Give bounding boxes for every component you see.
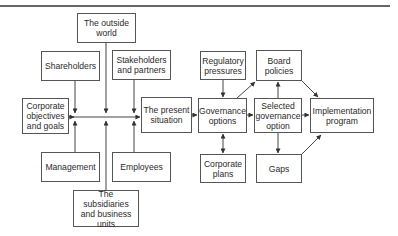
node-label: Management	[45, 162, 95, 172]
node-label: The present situation	[144, 105, 190, 125]
node-governance-options: Governance options	[198, 98, 247, 133]
node-management: Management	[41, 152, 100, 182]
node-label: The outside world	[84, 18, 129, 38]
node-label: Stakeholders and partners	[116, 55, 166, 75]
node-label: Corporate plans	[204, 159, 242, 179]
node-board-policies: Board policies	[256, 50, 302, 81]
node-implementation-program: Implementation program	[310, 98, 374, 133]
node-label: Employees	[120, 162, 163, 172]
node-label: Regulatory pressures	[202, 56, 244, 76]
node-subsidiaries: The subsidiaries and business units	[73, 190, 139, 227]
node-label: Implementation program	[313, 106, 372, 126]
node-label: Governance options	[199, 106, 246, 126]
node-outside-world: The outside world	[77, 13, 136, 43]
node-label: Gaps	[269, 164, 290, 174]
governance-flow-diagram: The outside world Shareholders Stakehold…	[0, 0, 398, 236]
node-label: Corporate objectives and goals	[26, 101, 64, 131]
node-corporate-plans: Corporate plans	[200, 154, 246, 183]
node-employees: Employees	[112, 152, 171, 182]
node-present-situation: The present situation	[141, 97, 192, 133]
node-regulatory-pressures: Regulatory pressures	[200, 51, 246, 80]
node-label: Board policies	[265, 56, 294, 76]
node-stakeholders: Stakeholders and partners	[112, 50, 171, 80]
node-label: The subsidiaries and business units	[75, 189, 137, 229]
node-label: Selected governance option	[256, 101, 301, 131]
node-shareholders: Shareholders	[41, 51, 100, 81]
node-corporate-objectives: Corporate objectives and goals	[22, 98, 69, 134]
node-gaps: Gaps	[256, 154, 302, 183]
node-label: Shareholders	[45, 61, 96, 71]
node-selected-governance-option: Selected governance option	[254, 98, 302, 133]
